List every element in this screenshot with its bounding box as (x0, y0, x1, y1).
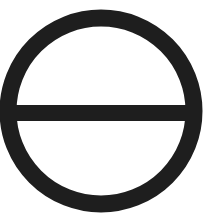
circle-bar-symbol-icon (0, 0, 216, 221)
